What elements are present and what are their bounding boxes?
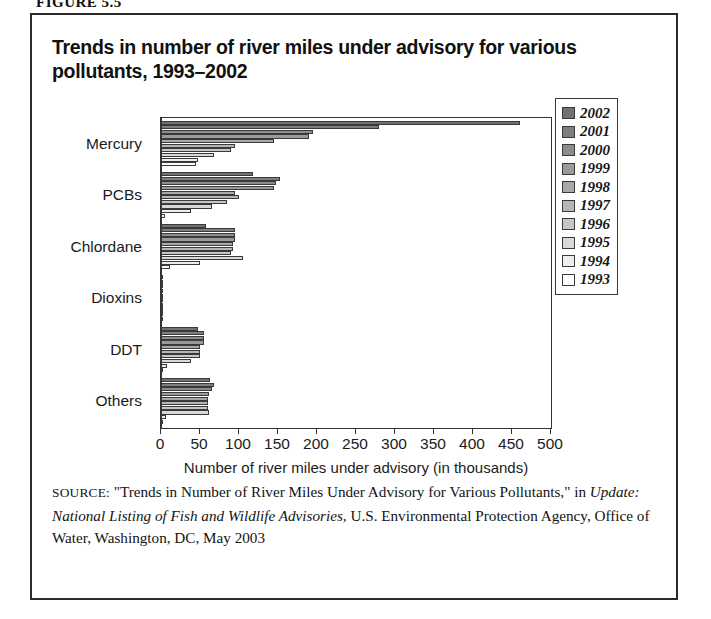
legend-label-1999: 1999 (580, 161, 610, 176)
source-note: SOURCE: "Trends in Number of River Miles… (52, 481, 652, 550)
bar-dioxins-2000 (161, 284, 163, 288)
bar-mercury-1997 (161, 144, 235, 148)
legend-label-2002: 2002 (580, 106, 610, 121)
bar-ddt-1993 (161, 368, 163, 372)
bar-others-1997 (161, 401, 208, 405)
bar-ddt-2001 (161, 331, 204, 335)
bar-group-mercury (161, 118, 551, 170)
legend-item-1996[interactable]: 1996 (562, 215, 610, 234)
bar-others-1994 (161, 415, 166, 419)
legend-item-2000[interactable]: 2000 (562, 141, 610, 160)
bar-pcbs-2002 (161, 172, 253, 176)
legend-label-1994: 1994 (580, 254, 610, 269)
bar-mercury-1996 (161, 148, 231, 152)
source-line-1: "Trends in Number of River Miles Under A… (110, 483, 590, 500)
legend-item-1998[interactable]: 1998 (562, 178, 610, 197)
legend-item-1995[interactable]: 1995 (562, 234, 610, 253)
x-tick-150 (277, 429, 278, 434)
x-tick-label-0: 0 (156, 435, 165, 453)
bar-chlordane-1993 (161, 265, 170, 269)
legend-label-1995: 1995 (580, 235, 610, 250)
bar-others-1996 (161, 406, 208, 410)
bar-group-dioxins (161, 273, 551, 325)
bar-others-1995 (161, 410, 209, 414)
bar-ddt-1997 (161, 350, 200, 354)
legend-item-2002[interactable]: 2002 (562, 104, 610, 123)
bar-ddt-1999 (161, 340, 204, 344)
bar-chlordane-1998 (161, 242, 233, 246)
x-tick-label-200: 200 (303, 435, 329, 453)
x-tick-label-350: 350 (420, 435, 446, 453)
x-tick-label-400: 400 (459, 435, 485, 453)
bar-mercury-1995 (161, 153, 214, 157)
y-label-mercury: Mercury (86, 135, 142, 153)
legend-item-1994[interactable]: 1994 (562, 252, 610, 271)
bar-mercury-2002 (161, 121, 520, 125)
bar-others-1998 (161, 397, 208, 401)
x-tick-0 (160, 429, 161, 434)
x-tick-350 (433, 429, 434, 434)
legend-label-1996: 1996 (580, 217, 610, 232)
y-label-ddt: DDT (110, 341, 142, 359)
bar-groups (161, 118, 551, 427)
legend-label-2001: 2001 (580, 124, 610, 139)
bar-mercury-1994 (161, 158, 198, 162)
legend-swatch-2000 (562, 144, 575, 156)
legend-item-1999[interactable]: 1999 (562, 160, 610, 179)
bar-mercury-1998 (161, 139, 274, 143)
bar-pcbs-1998 (161, 191, 235, 195)
bar-dioxins-1995 (161, 307, 163, 311)
legend-swatch-1997 (562, 200, 575, 212)
bar-dioxins-1994 (161, 312, 163, 316)
bar-others-2001 (161, 383, 214, 387)
bar-ddt-1994 (161, 364, 167, 368)
x-tick-label-300: 300 (381, 435, 407, 453)
source-prefix: SOURCE: (52, 485, 110, 500)
legend-item-2001[interactable]: 2001 (562, 123, 610, 142)
bar-dioxins-1997 (161, 298, 163, 302)
figure-label: FIGURE 5.5 (36, 0, 122, 8)
bar-ddt-1995 (161, 359, 191, 363)
legend-swatch-1995 (562, 237, 575, 249)
bar-ddt-1996 (161, 354, 200, 358)
bar-chlordane-1996 (161, 251, 231, 255)
legend-item-1997[interactable]: 1997 (562, 197, 610, 216)
bar-mercury-2001 (161, 125, 379, 129)
bar-pcbs-1997 (161, 195, 239, 199)
bar-pcbs-1999 (161, 186, 274, 190)
y-label-chlordane: Chlordane (70, 238, 142, 256)
x-tick-label-100: 100 (225, 435, 251, 453)
bar-group-chlordane (161, 221, 551, 273)
y-label-others: Others (95, 392, 142, 410)
legend-swatch-1999 (562, 163, 575, 175)
bar-dioxins-1993 (161, 317, 163, 321)
bar-dioxins-1999 (161, 289, 163, 293)
x-tick-label-50: 50 (190, 435, 207, 453)
legend-label-1998: 1998 (580, 180, 610, 195)
x-tick-label-450: 450 (498, 435, 524, 453)
bar-chlordane-2002 (161, 224, 206, 228)
x-tick-200 (316, 429, 317, 434)
figure-box: Trends in number of river miles under ad… (30, 13, 678, 600)
bar-dioxins-1996 (161, 303, 163, 307)
x-tick-250 (355, 429, 356, 434)
x-axis-title: Number of river miles under advisory (in… (160, 459, 552, 476)
bar-mercury-2000 (161, 130, 313, 134)
legend-item-1993[interactable]: 1993 (562, 271, 610, 290)
x-axis-ticks: 050100150200250300350400450500 (160, 429, 552, 463)
x-tick-100 (238, 429, 239, 434)
x-tick-450 (511, 429, 512, 434)
bar-dioxins-2002 (161, 275, 163, 279)
bar-dioxins-2001 (161, 280, 163, 284)
bar-ddt-1998 (161, 345, 200, 349)
bar-mercury-1993 (161, 162, 196, 166)
bar-ddt-2002 (161, 327, 198, 331)
bar-ddt-2000 (161, 336, 204, 340)
bar-dioxins-1998 (161, 294, 163, 298)
x-tick-label-250: 250 (342, 435, 368, 453)
x-tick-50 (199, 429, 200, 434)
legend-label-2000: 2000 (580, 143, 610, 158)
bar-others-2000 (161, 387, 212, 391)
bar-pcbs-1994 (161, 209, 191, 213)
bar-group-ddt (161, 324, 551, 376)
